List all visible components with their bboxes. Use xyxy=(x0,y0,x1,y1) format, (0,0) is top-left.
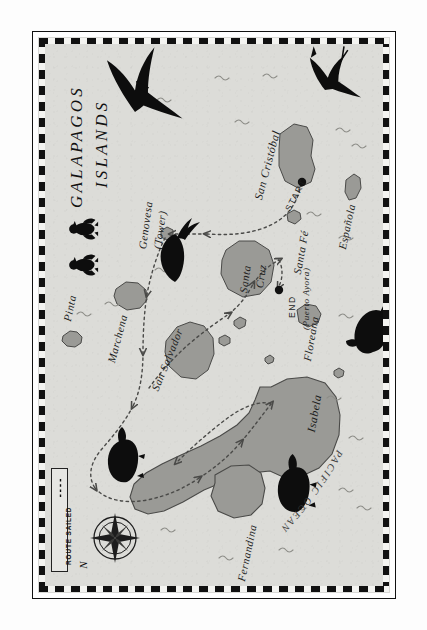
map-canvas: GALAPAGOS ISLANDS Pinta Marchena Genoves… xyxy=(39,38,389,592)
legend-dash-symbol xyxy=(57,478,64,498)
legend-box: ROUTE SAILED xyxy=(51,468,68,572)
legend-label: ROUTE SAILED xyxy=(65,507,72,565)
compass-north-label: N xyxy=(77,561,89,568)
ocean-label-layer: PACIFIC OCEAN xyxy=(39,38,389,592)
map-page: GALAPAGOS ISLANDS Pinta Marchena Genoves… xyxy=(0,0,427,630)
pacific-ocean-label: PACIFIC OCEAN xyxy=(278,448,345,536)
